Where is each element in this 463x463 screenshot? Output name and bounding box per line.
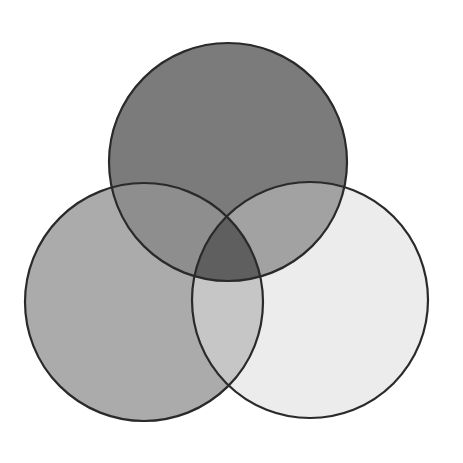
venn-diagram-canvas <box>0 0 463 463</box>
venn-diagram <box>0 0 463 463</box>
